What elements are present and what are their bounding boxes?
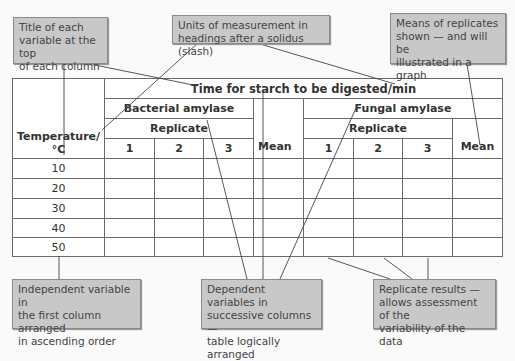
callout-dependent: Dependent variables in successive column… <box>201 279 322 329</box>
data-cell <box>403 219 453 238</box>
data-cell <box>304 199 354 219</box>
replicate-header-fungal: Replicate <box>304 119 453 139</box>
callout-title-variable: Title of each variable at the top of eac… <box>13 17 108 64</box>
data-cell <box>354 159 403 179</box>
callout-text-line: Title of each <box>19 21 102 34</box>
data-cell <box>155 159 204 179</box>
data-cell <box>155 179 204 199</box>
data-cell <box>204 219 254 238</box>
data-cell <box>254 199 304 219</box>
data-cell <box>453 238 503 257</box>
callout-text-line: successive columns — <box>207 309 316 335</box>
callout-text-line: Means of replicates <box>396 17 500 30</box>
table-row: 10 <box>13 159 503 179</box>
table-row: 20 <box>13 179 503 199</box>
data-cell <box>304 238 354 257</box>
callout-units: Units of measurement in headings after a… <box>172 15 330 44</box>
callout-text-line: shown — and will be <box>396 30 500 56</box>
group-header-fungal: Fungal amylase <box>304 99 503 119</box>
replicate-3-fungal: 3 <box>403 139 453 159</box>
leader-line-replicate-2 <box>384 258 412 279</box>
replicate-2-bacterial: 2 <box>155 139 204 159</box>
data-cell <box>204 199 254 219</box>
data-cell <box>453 219 503 238</box>
data-cell <box>155 219 204 238</box>
data-cell <box>403 199 453 219</box>
data-cell <box>354 238 403 257</box>
table-row: 30 <box>13 199 503 219</box>
callout-text-line: variable at the top <box>19 34 102 60</box>
data-cell <box>304 179 354 199</box>
temperature-cell: 30 <box>13 199 105 219</box>
mean-header-fungal: Mean <box>453 119 503 159</box>
group-header-bacterial: Bacterial amylase <box>105 99 254 119</box>
mean-header-bacterial: Mean <box>254 99 304 159</box>
data-cell <box>105 179 155 199</box>
callout-text-line: illustrated in a graph <box>396 56 500 82</box>
callout-text-line: Replicate results — <box>379 283 490 296</box>
replicate-1-fungal: 1 <box>304 139 354 159</box>
temperature-cell: 10 <box>13 159 105 179</box>
callout-replicate: Replicate results — allows assessment of… <box>373 279 496 329</box>
leader-line-replicate-1 <box>328 258 390 279</box>
data-cell <box>304 219 354 238</box>
callout-text-line: variability of the data <box>379 322 490 348</box>
data-cell <box>453 179 503 199</box>
data-cell <box>155 199 204 219</box>
data-cell <box>155 238 204 257</box>
data-cell <box>403 159 453 179</box>
data-cell <box>403 238 453 257</box>
replicate-header-bacterial: Replicate <box>105 119 254 139</box>
table-row: 50 <box>13 238 503 257</box>
temperature-cell: 50 <box>13 238 105 257</box>
callout-text-line: headings after a solidus (slash) <box>178 32 324 58</box>
callout-text-line: the first column arranged <box>18 309 135 335</box>
callout-independent: Independent variable in the first column… <box>12 279 141 329</box>
data-cell <box>254 238 304 257</box>
callout-text-line: table logically arranged <box>207 335 316 361</box>
temperature-header-unit: °C <box>13 143 104 156</box>
temperature-header-line1: Temperature/ <box>13 92 104 143</box>
callout-means: Means of replicates shown — and will be … <box>390 13 506 64</box>
callout-text-line: of each column <box>19 60 102 73</box>
data-cell <box>105 199 155 219</box>
replicate-3-bacterial: 3 <box>204 139 254 159</box>
replicate-2-fungal: 2 <box>354 139 403 159</box>
callout-text-line: Independent variable in <box>18 283 135 309</box>
callout-text-line: Units of measurement in <box>178 19 324 32</box>
data-cell <box>254 219 304 238</box>
data-cell <box>354 219 403 238</box>
data-cell <box>254 179 304 199</box>
results-table: Temperature/ °C Time for starch to be di… <box>12 78 503 257</box>
data-cell <box>304 159 354 179</box>
data-cell <box>453 199 503 219</box>
data-cell <box>453 159 503 179</box>
data-cell <box>105 159 155 179</box>
temperature-cell: 20 <box>13 179 105 199</box>
data-cell <box>105 238 155 257</box>
data-cell <box>105 219 155 238</box>
callout-text-line: Dependent variables in <box>207 283 316 309</box>
data-cell <box>204 159 254 179</box>
replicate-1-bacterial: 1 <box>105 139 155 159</box>
callout-text-line: in ascending order <box>18 335 135 348</box>
data-cell <box>204 179 254 199</box>
data-cell <box>254 159 304 179</box>
data-cell <box>403 179 453 199</box>
data-cell <box>354 179 403 199</box>
data-cell <box>354 199 403 219</box>
data-cell <box>204 238 254 257</box>
temperature-header-cell: Temperature/ °C <box>13 79 105 159</box>
table-row: 40 <box>13 219 503 238</box>
callout-text-line: allows assessment of the <box>379 296 490 322</box>
temperature-cell: 40 <box>13 219 105 238</box>
